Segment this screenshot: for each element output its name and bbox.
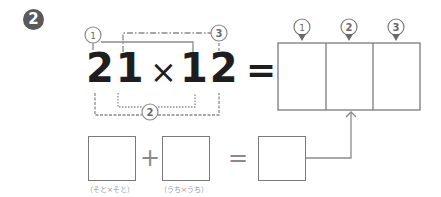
svg-text:3: 3 — [216, 28, 223, 39]
inner-product-caption: （うち×うち） — [160, 184, 208, 194]
outer-product-box[interactable] — [88, 136, 136, 181]
left-operand: 21 — [86, 48, 146, 88]
inner-product-box[interactable] — [162, 136, 210, 181]
sub-equals-sign: = — [228, 146, 248, 170]
answer-cell-3[interactable] — [374, 44, 420, 110]
outer-product-caption: （そと×そと） — [86, 184, 134, 194]
svg-text:3: 3 — [393, 22, 400, 33]
equals-sign: = — [246, 52, 276, 88]
svg-text:1: 1 — [299, 23, 305, 33]
right-operand: 12 — [180, 48, 240, 88]
multiply-sign: × — [150, 52, 179, 92]
answer-cell-1[interactable] — [279, 44, 326, 110]
bracket-line-inner-bottom — [118, 93, 142, 107]
svg-text:1: 1 — [90, 31, 96, 41]
answer-cell-2[interactable] — [327, 44, 373, 110]
svg-text:2: 2 — [346, 22, 353, 33]
sum-box[interactable] — [258, 136, 306, 181]
result-arrow — [305, 112, 351, 158]
plus-sign: + — [140, 146, 160, 170]
svg-text:2: 2 — [147, 107, 154, 118]
